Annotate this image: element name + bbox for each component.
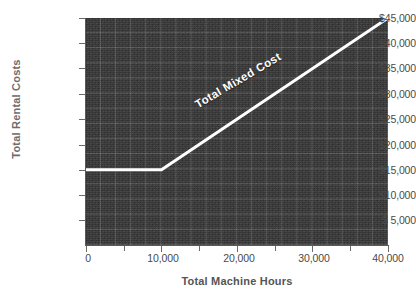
x-axis-title: Total Machine Hours <box>86 275 388 287</box>
y-tick-label-20000: $20,000 <box>342 139 416 151</box>
x-tick-25000 <box>275 246 276 251</box>
y-tick-label-5000: $ 5,000 <box>342 214 416 226</box>
y-axis-line <box>85 18 86 246</box>
x-tick-label-40000: 40,000 <box>372 252 404 264</box>
y-tick-label-45000: $45,000 <box>342 12 416 24</box>
y-tick-25000 <box>79 119 85 120</box>
y-tick-20000 <box>79 145 85 146</box>
x-tick-label-0: 0 <box>85 252 91 264</box>
plot-area <box>86 18 388 245</box>
y-tick-45000 <box>79 18 85 19</box>
y-tick-label-25000: $25,000 <box>342 113 416 125</box>
data-series-layer <box>86 18 388 245</box>
x-tick-15000 <box>199 246 200 251</box>
y-tick-label-35000: $35,000 <box>342 62 416 74</box>
y-tick-label-15000: $15,000 <box>342 164 416 176</box>
y-tick-15000 <box>79 170 85 171</box>
x-tick-35000 <box>350 246 351 251</box>
y-tick-label-10000: $10,000 <box>342 189 416 201</box>
y-tick-label-30000: $30,000 <box>342 88 416 100</box>
y-tick-5000 <box>79 220 85 221</box>
y-tick-label-40000: $40,000 <box>342 37 416 49</box>
y-tick-40000 <box>79 43 85 44</box>
y-tick-10000 <box>79 195 85 196</box>
mixed-cost-chart: $45,000 $40,000 $35,000 $30,000 $25,000 … <box>0 0 416 300</box>
y-tick-35000 <box>79 68 85 69</box>
y-tick-30000 <box>79 94 85 95</box>
x-tick-label-10000: 10,000 <box>147 252 179 264</box>
x-tick-5000 <box>124 246 125 251</box>
x-tick-label-30000: 30,000 <box>298 252 330 264</box>
y-axis-title: Total Rental Costs <box>10 29 22 189</box>
x-tick-label-20000: 20,000 <box>223 252 255 264</box>
